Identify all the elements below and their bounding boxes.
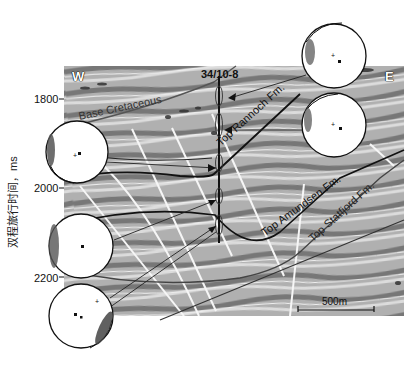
stereonet-upper-right: + <box>302 23 366 88</box>
horizon-top-statfjord <box>64 160 404 283</box>
svg-text:+: + <box>331 52 335 59</box>
svg-text:+: + <box>331 121 335 128</box>
well-label: 34/10-8 <box>201 68 238 80</box>
y-axis-title: 双程旅行时间，ms <box>4 156 20 248</box>
connector-lines <box>106 75 306 310</box>
y-tick-1800: 1800 <box>34 93 58 105</box>
stereonet-left-middle <box>49 214 113 278</box>
arrowheads <box>208 93 236 233</box>
svg-text:+: + <box>95 298 99 305</box>
y-tick-2200: 2200 <box>34 272 58 284</box>
scale-bar-label: 500m <box>322 296 347 307</box>
well-bore <box>216 76 223 243</box>
stereonet-right: + <box>302 93 366 157</box>
svg-text:+: + <box>73 152 77 159</box>
y-tick-2000: 2000 <box>34 182 58 194</box>
stereonet-left-lower: + <box>49 284 116 348</box>
annotation-overlay: + + + + <box>0 0 417 369</box>
stereonet-left-upper: + <box>46 121 108 183</box>
compass-west: W <box>72 69 84 84</box>
seismic-figure: + + + + <box>0 0 417 369</box>
compass-east: E <box>385 69 394 84</box>
